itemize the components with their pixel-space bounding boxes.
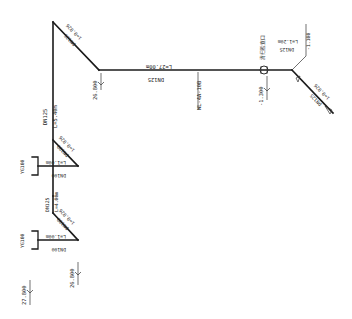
label-fixture-lower: YG100 xyxy=(20,233,25,248)
label-elev-base: 27.800 xyxy=(21,286,27,305)
fixture-trap-lower xyxy=(32,231,38,249)
label-branch-upper-length: L=1.00m xyxy=(46,160,66,165)
flow-arrow-icon xyxy=(296,76,300,82)
label-fixture-upper: YG100 xyxy=(20,159,25,174)
fixture-trap-upper xyxy=(32,157,38,175)
label-lower-length: L=4.00m xyxy=(54,192,59,212)
label-branch-upper-hsize: DN100 xyxy=(51,173,66,178)
pipe-top-diagonal xyxy=(53,22,99,70)
label-left-size: DN125 xyxy=(42,109,48,125)
label-riser-length: L=1.20m xyxy=(278,39,298,44)
pipe-right-diagonal xyxy=(292,70,333,113)
label-riser-size: DN125 xyxy=(279,47,294,52)
label-device-name: 清扫检查口 xyxy=(259,35,266,60)
label-branch-lower-length: L=1.00m xyxy=(46,234,66,239)
label-elev-branch: 26.800 xyxy=(69,269,75,288)
label-lower-size: DN125 xyxy=(45,197,50,212)
pipe-network xyxy=(38,22,333,240)
label-riser-elev: -1.100 xyxy=(306,33,311,50)
label-branch-lower-hsize: DN100 xyxy=(51,247,66,252)
label-device-tag: WL-4A-10B xyxy=(196,81,202,110)
elevation-marker-branch xyxy=(75,262,81,285)
elevation-marker-valve xyxy=(264,76,270,100)
elevation-marker-base xyxy=(27,280,33,305)
pipe-right-riser xyxy=(292,24,306,70)
label-main-size: DN125 xyxy=(148,77,164,83)
label-elev-corner: 26.800 xyxy=(92,81,98,100)
pipe-diagram-canvas: i=0.026 DN125 L=27.00m DN125 DN125 L=5.4… xyxy=(0,0,352,319)
elevation-marker-corner xyxy=(98,73,104,90)
label-main-length: L=27.00m xyxy=(146,64,172,70)
label-elev-valve: -1.300 xyxy=(258,87,264,106)
label-left-length: L=5.40m xyxy=(52,105,58,128)
